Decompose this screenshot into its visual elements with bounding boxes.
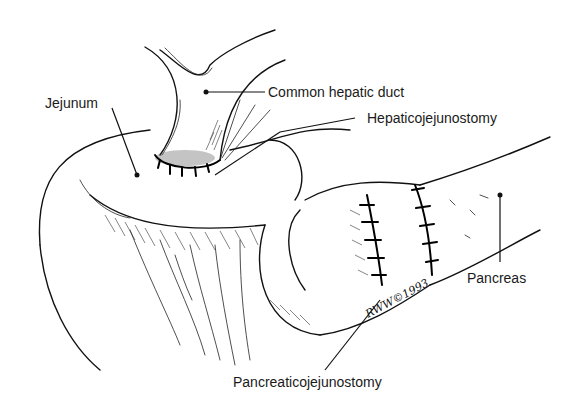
common-hepatic-duct-drawing	[145, 30, 285, 160]
label-hepaticojejunostomy: Hepaticojejunostomy	[367, 111, 497, 125]
label-pancreaticojejunostomy: Pancreaticojejunostomy	[233, 375, 382, 389]
jejunal-limb-drawing	[260, 140, 430, 335]
label-pancreas: Pancreas	[467, 271, 526, 285]
artist-signature: RWW©1993	[362, 276, 430, 321]
illustration-drawing: RWW©1993	[0, 0, 570, 416]
label-common-hepatic-duct: Common hepatic duct	[268, 85, 404, 99]
leader-lines	[112, 90, 503, 371]
pancreaticojejunostomy-anastomosis	[350, 185, 438, 285]
label-jejunum: Jejunum	[45, 96, 98, 110]
surgical-illustration: RWW©1993 Common hepatic duct Jejunum Hep…	[0, 0, 570, 416]
pancreas-drawing	[420, 137, 550, 285]
